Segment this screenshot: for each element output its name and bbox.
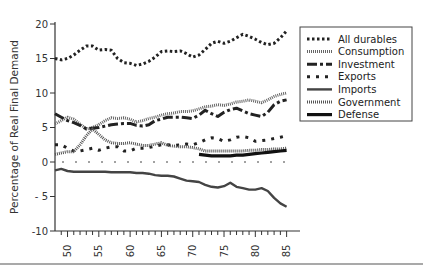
y-tick-label: -10: [32, 226, 48, 237]
series-imports: [55, 169, 287, 207]
line-chart: 20151050- 5-10 5055606570758085 Percenta…: [0, 0, 423, 273]
legend-label: Government: [338, 97, 400, 108]
y-tick-label: 20: [35, 19, 48, 30]
x-tick-label: 60: [125, 245, 136, 258]
x-tick-label: 65: [156, 245, 167, 258]
series-investment: [55, 100, 287, 129]
series-government: [55, 129, 287, 155]
legend-label: Consumption: [338, 46, 404, 57]
series-exports: [55, 136, 287, 151]
y-ticks: 20151050- 5-10: [32, 19, 55, 237]
series-all-durables: [55, 31, 287, 66]
series-layer: [55, 31, 287, 207]
legend-label: Imports: [338, 84, 376, 95]
x-tick-label: 85: [281, 245, 292, 258]
y-tick-label: - 5: [35, 191, 48, 202]
x-ticks: 5055606570758085: [61, 231, 292, 257]
legend-label: Exports: [338, 71, 376, 82]
series-consumption: [55, 93, 287, 129]
x-tick-label: 80: [250, 245, 261, 258]
legend: All durablesConsumptionInvestmentExports…: [300, 27, 412, 121]
legend-label: All durables: [338, 34, 397, 45]
y-axis-title: Percentage of Real Final Demand: [8, 40, 20, 214]
x-tick-label: 70: [187, 245, 198, 258]
x-tick-label: 75: [219, 245, 230, 258]
y-tick-label: 0: [42, 157, 48, 168]
y-tick-label: 5: [42, 122, 48, 133]
x-tick-label: 50: [62, 245, 73, 258]
legend-label: Defense: [338, 109, 379, 120]
x-tick-label: 55: [93, 245, 104, 258]
y-tick-label: 10: [35, 88, 48, 99]
y-tick-label: 15: [35, 53, 48, 64]
legend-label: Investment: [338, 59, 395, 70]
axes: 20151050- 5-10 5055606570758085: [32, 19, 300, 258]
